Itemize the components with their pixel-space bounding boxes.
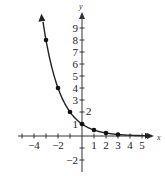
annotation-label: 2: [86, 105, 92, 117]
y-tick-label: 3: [73, 94, 79, 106]
x-tick-label: −2: [52, 139, 64, 151]
curve-arrow-icon: [38, 14, 45, 22]
x-axis-label: x: [156, 133, 161, 142]
x-tick-label: −4: [28, 139, 40, 151]
curve: [38, 14, 152, 139]
y-tick-label: 8: [73, 34, 79, 46]
x-tick-label: 5: [139, 139, 145, 151]
y-tick-label: 1: [73, 118, 79, 130]
y-tick-label: 7: [73, 46, 79, 58]
x-tick-label: 2: [103, 139, 109, 151]
data-point: [44, 38, 49, 43]
y-tick-label: 6: [73, 58, 79, 70]
data-point: [116, 132, 121, 137]
y-tick-label: 4: [73, 82, 79, 94]
x-tick-label: 4: [127, 139, 133, 151]
data-point: [92, 128, 97, 133]
y-axis-label: y: [78, 2, 83, 11]
y-axis-arrow-icon: [79, 12, 85, 19]
tick-labels: −4−21234598765431−2: [28, 22, 145, 166]
data-point: [56, 86, 61, 91]
data-point: [104, 131, 109, 136]
y-tick-label: 5: [73, 70, 79, 82]
data-point: [80, 122, 85, 127]
x-tick-label: 3: [115, 139, 121, 151]
y-tick-label: 9: [73, 22, 79, 34]
exponential-graph: −4−21234598765431−2 x y 2: [0, 0, 165, 176]
x-tick-label: 1: [91, 139, 97, 151]
function-curve: [43, 22, 147, 136]
y-tick-label: −2: [66, 154, 78, 166]
data-point: [68, 110, 73, 115]
